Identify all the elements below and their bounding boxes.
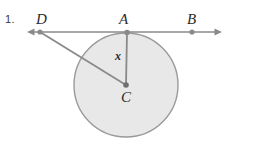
point-c-marker xyxy=(123,82,129,88)
figure-page: circle p 1. D A B C x xyxy=(0,0,253,145)
arrowhead-left-icon xyxy=(27,29,35,36)
point-label-a: A xyxy=(119,12,128,27)
arrowhead-right-icon xyxy=(215,29,223,36)
segment-a-to-c-radius xyxy=(126,33,127,85)
point-d-marker xyxy=(37,29,42,34)
point-b-marker xyxy=(189,29,194,34)
point-a-marker xyxy=(124,30,130,36)
point-label-d: D xyxy=(36,12,47,27)
point-label-c: C xyxy=(121,90,131,105)
segment-label-x: x xyxy=(115,50,121,62)
point-label-b: B xyxy=(187,12,196,27)
